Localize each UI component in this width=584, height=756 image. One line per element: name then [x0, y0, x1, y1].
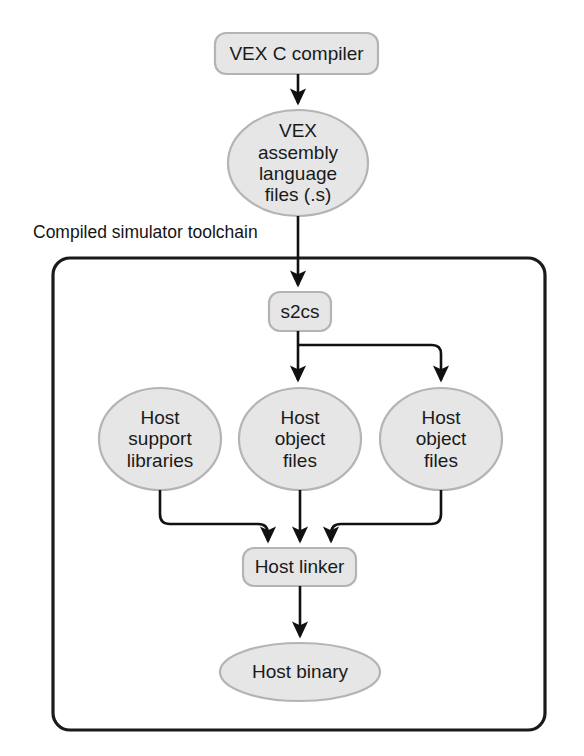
- group-caption-compiled-simulator-toolchain: Compiled simulator toolchain: [33, 222, 258, 243]
- node-host-object-files-right[interactable]: [380, 388, 502, 490]
- node-host-binary[interactable]: [220, 643, 380, 701]
- node-host-linker[interactable]: [243, 548, 356, 586]
- diagram-graphics: [0, 0, 584, 756]
- node-vex-c-compiler[interactable]: [215, 33, 378, 74]
- edge-s2cs-to-object-files-right: [298, 345, 441, 380]
- diagram-canvas: Compiled simulator toolchain VEX C compi…: [0, 0, 584, 756]
- node-host-object-files-center[interactable]: [239, 388, 361, 490]
- node-vex-assembly-files[interactable]: [228, 110, 368, 216]
- node-host-support-libraries[interactable]: [99, 388, 221, 490]
- edge-support-libraries-to-linker: [160, 490, 268, 541]
- node-s2cs[interactable]: [269, 292, 331, 331]
- edge-object-files-right-to-linker: [331, 490, 441, 541]
